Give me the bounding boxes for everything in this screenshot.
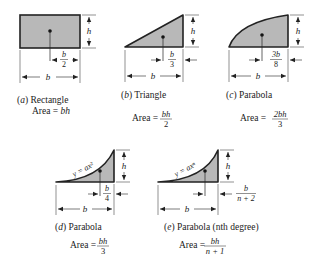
svg-text:n + 2: n + 2 bbox=[237, 194, 254, 203]
svg-text:b: b bbox=[62, 50, 66, 59]
caption-c-area: Area = bbox=[240, 113, 266, 124]
svg-text:bh: bh bbox=[211, 236, 220, 246]
caption-a: (a) Rectangle bbox=[17, 95, 68, 106]
svg-text:h: h bbox=[296, 26, 301, 36]
svg-text:b: b bbox=[185, 204, 190, 214]
svg-text:2: 2 bbox=[62, 60, 66, 69]
shape-parabola-quadratic: y = ax² h b 4 b bbox=[56, 150, 130, 215]
caption-e-area: Area = bbox=[179, 240, 205, 251]
svg-text:4: 4 bbox=[105, 194, 109, 203]
svg-text:b: b bbox=[256, 71, 261, 81]
svg-text:2bh: 2bh bbox=[274, 109, 287, 119]
svg-text:b: b bbox=[105, 184, 109, 193]
caption-d: (d) Parabola bbox=[55, 222, 102, 233]
svg-text:b: b bbox=[151, 71, 156, 81]
svg-text:bh: bh bbox=[99, 236, 108, 246]
svg-text:b: b bbox=[244, 184, 248, 193]
dim-h: h bbox=[87, 26, 92, 36]
svg-text:n + 1: n + 1 bbox=[206, 246, 225, 256]
svg-text:b: b bbox=[83, 204, 88, 214]
shape-rectangle: h b 2 b bbox=[20, 15, 96, 83]
caption-e: (e) Parabola (nth degree) bbox=[164, 222, 259, 233]
svg-text:b: b bbox=[170, 50, 174, 59]
shape-triangle: h b 3 b bbox=[125, 15, 199, 82]
svg-text:h: h bbox=[226, 161, 231, 171]
svg-text:h: h bbox=[122, 161, 127, 171]
caption-d-area: Area = bbox=[70, 240, 96, 251]
svg-text:3: 3 bbox=[170, 60, 174, 69]
caption-b-area: Area = bbox=[132, 113, 158, 124]
svg-text:bh: bh bbox=[162, 109, 171, 119]
caption-a-area: Area = bh bbox=[32, 106, 70, 117]
shape-parabola-nth-degree: y = axⁿ h b n + 2 b bbox=[158, 150, 256, 215]
caption-c: (c) Parabola bbox=[226, 90, 272, 101]
caption-b: (b) Triangle bbox=[121, 90, 166, 101]
svg-text:8: 8 bbox=[274, 60, 278, 69]
svg-text:2: 2 bbox=[164, 119, 168, 129]
svg-text:3: 3 bbox=[101, 246, 105, 256]
svg-text:b: b bbox=[46, 72, 51, 82]
shape-parabola: h 3b 8 b bbox=[229, 15, 304, 82]
svg-text:3b: 3b bbox=[271, 50, 280, 59]
svg-text:3: 3 bbox=[278, 119, 282, 129]
svg-text:h: h bbox=[191, 26, 196, 36]
